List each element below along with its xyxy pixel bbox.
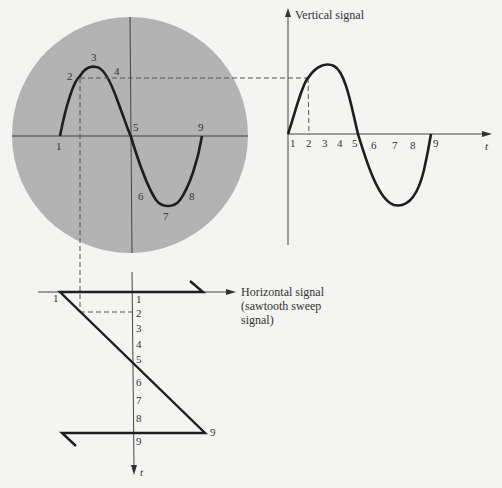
horizontal-axis-arrow-icon — [226, 289, 236, 295]
time-axis-t-label: t — [140, 466, 144, 478]
vertical-signal-sine-trace — [288, 65, 431, 206]
time-tick-2: 2 — [136, 307, 142, 319]
time-tick-7: 7 — [136, 394, 142, 406]
t-tick-2: 2 — [306, 137, 312, 149]
t-tick-4: 4 — [337, 137, 343, 149]
crt-screen: 1 2 3 4 5 6 7 8 9 — [12, 17, 248, 253]
screen-point-1: 1 — [56, 140, 62, 152]
horizontal-signal-time-axis — [132, 272, 134, 466]
screen-point-7: 7 — [163, 210, 169, 222]
time-axis-arrow-icon — [131, 465, 137, 475]
t-tick-6: 6 — [371, 139, 377, 151]
time-tick-5: 5 — [136, 353, 142, 365]
horizontal-signal-title-line1: Horizontal signal — [241, 285, 325, 299]
sawtooth-end-label: 9 — [210, 426, 216, 438]
oscilloscope-diagram: 1 2 3 4 5 6 7 8 9 Vertical signal t 1 2 … — [0, 0, 502, 488]
time-tick-1: 1 — [136, 293, 142, 305]
y-axis-arrow-icon — [285, 8, 291, 17]
time-tick-4: 4 — [136, 338, 142, 350]
vertical-signal-title: Vertical signal — [295, 8, 365, 22]
horizontal-signal-title-line3: signal) — [241, 313, 274, 327]
screen-point-4: 4 — [114, 65, 120, 77]
t-tick-1: 1 — [290, 137, 296, 149]
t-tick-9: 9 — [433, 137, 439, 149]
dashed-vertical-to-t2 — [308, 78, 309, 134]
time-tick-8: 8 — [136, 412, 142, 424]
t-axis-arrow-icon — [482, 131, 492, 137]
screen-point-3: 3 — [91, 51, 97, 63]
screen-point-2: 2 — [67, 70, 73, 82]
screen-point-9: 9 — [198, 121, 204, 133]
screen-point-8: 8 — [189, 190, 195, 202]
t-tick-8: 8 — [410, 139, 416, 151]
horizontal-signal-plot: Horizontal signal (sawtooth sweep signal… — [38, 272, 325, 478]
t-tick-7: 7 — [392, 139, 398, 151]
t-tick-3: 3 — [322, 137, 328, 149]
time-tick-6: 6 — [136, 376, 142, 388]
sawtooth-start-label: 1 — [53, 292, 59, 304]
time-tick-3: 3 — [136, 322, 142, 334]
horizontal-signal-title-line2: (sawtooth sweep — [241, 299, 321, 313]
vertical-signal-plot: Vertical signal t 1 2 3 4 5 6 7 8 9 — [285, 8, 492, 245]
time-tick-9: 9 — [136, 435, 142, 447]
t-tick-5: 5 — [352, 137, 358, 149]
screen-point-5: 5 — [133, 121, 139, 133]
screen-point-6: 6 — [138, 190, 144, 202]
vertical-signal-t-label: t — [485, 140, 489, 152]
